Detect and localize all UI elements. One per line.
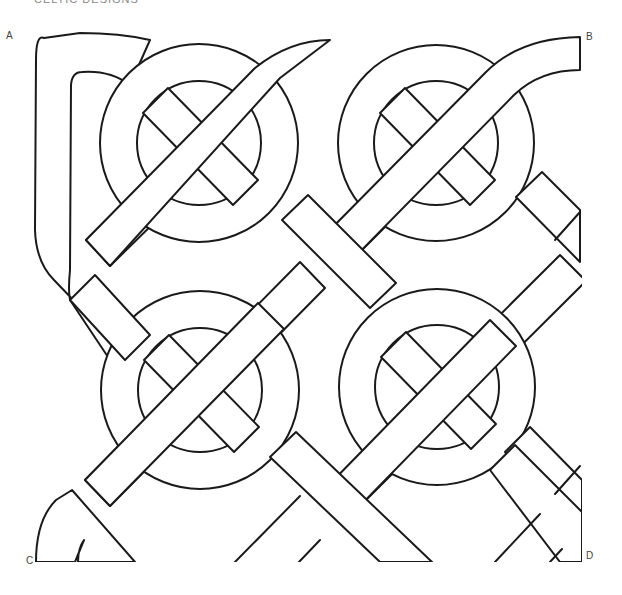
corner-label-b: B: [586, 31, 593, 42]
strand-to-c: [36, 490, 135, 562]
edge-stroke-bottom-3: [495, 514, 540, 562]
edge-stroke-bottom-1: [235, 496, 300, 562]
edge-stroke-bottom-2: [299, 540, 320, 562]
celtic-knot-drawing: [0, 0, 622, 595]
corner-label-d: D: [586, 550, 593, 561]
corner-label-c: C: [26, 555, 33, 566]
link-band-right-top: [516, 172, 580, 262]
corner-label-a: A: [6, 30, 13, 41]
